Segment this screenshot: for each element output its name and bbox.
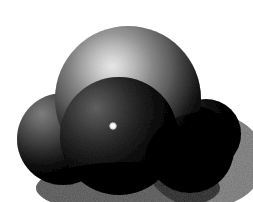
specular-dot [109, 122, 117, 130]
molecule-illustration [0, 0, 253, 202]
molecule-render-canvas: Grayscale space-filling molecular model:… [0, 0, 253, 202]
